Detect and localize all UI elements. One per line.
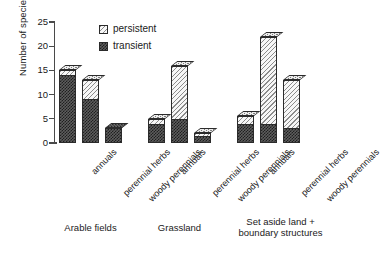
group-label-2: Set aside land + boundary structures — [226, 216, 336, 238]
bar-segment-persistent — [237, 116, 254, 123]
y-tick-label-20: 20 — [30, 41, 48, 51]
bar-annuals — [148, 119, 165, 143]
bar-woody-perennials — [283, 80, 300, 143]
bar-woody-perennials — [105, 128, 122, 143]
bar-segment-transient — [171, 119, 188, 143]
bar-annuals — [237, 116, 254, 143]
bar-segment-persistent — [260, 37, 277, 124]
bar-annuals — [59, 70, 76, 143]
bar-perennial-herbs — [260, 37, 277, 143]
bar-segment-transient — [283, 128, 300, 143]
bar-segment-transient — [82, 99, 99, 143]
bar-woody-perennials — [194, 133, 211, 143]
bar-segment-transient — [194, 136, 211, 143]
bar-segment-transient — [148, 124, 165, 143]
bar-segment-transient — [105, 128, 122, 143]
y-tick-label-25: 25 — [30, 17, 48, 27]
bar-segment-transient — [237, 124, 254, 143]
group-label-1: Grassland — [125, 222, 235, 233]
y-tick-label-10: 10 — [30, 90, 48, 100]
bar-segment-transient — [59, 75, 76, 143]
plot-area — [55, 22, 327, 143]
bar-segment-persistent — [82, 80, 99, 99]
y-tick-label-0: 0 — [30, 138, 48, 148]
bar-perennial-herbs — [171, 66, 188, 143]
x-tick-label-0: annuals — [89, 147, 118, 176]
bar-segment-persistent — [171, 66, 188, 119]
bar-segment-transient — [260, 124, 277, 143]
y-axis-tick-labels: 0510152025 — [26, 0, 48, 160]
y-tick-label-15: 15 — [30, 65, 48, 75]
bar-segment-persistent — [283, 80, 300, 128]
y-tick-label-5: 5 — [30, 114, 48, 124]
bar-perennial-herbs — [82, 80, 99, 143]
